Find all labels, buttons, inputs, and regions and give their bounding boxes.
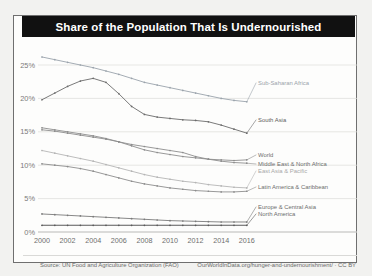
- data-point: [118, 177, 120, 179]
- data-point: [80, 168, 82, 170]
- data-point: [169, 150, 171, 152]
- data-point: [182, 220, 184, 222]
- data-point: [41, 129, 43, 131]
- data-point: [220, 224, 222, 226]
- data-point: [105, 82, 107, 84]
- data-point: [144, 114, 146, 116]
- data-point: [208, 158, 210, 160]
- data-point: [92, 224, 94, 226]
- y-axis-tick: 10%: [20, 161, 35, 170]
- data-point: [144, 146, 146, 148]
- series-label-connector: [247, 120, 256, 133]
- series-label-connector: [247, 163, 256, 164]
- source-url[interactable]: OurWorldInData.org/hunger-and-undernouri…: [197, 262, 356, 268]
- data-point: [80, 158, 82, 160]
- data-point: [105, 216, 107, 218]
- data-point: [131, 106, 133, 108]
- series-label-connector: [247, 171, 256, 188]
- data-point: [195, 190, 197, 192]
- data-point: [156, 176, 158, 178]
- data-point: [220, 185, 222, 187]
- x-axis-tick: 2006: [111, 236, 127, 245]
- data-point: [105, 164, 107, 166]
- data-point: [67, 61, 69, 63]
- line-chart: 0%5%10%15%20%25%200020022004200620082010…: [14, 16, 372, 266]
- data-point: [67, 86, 69, 88]
- data-point: [233, 191, 235, 193]
- series-label: Sub-Saharan Africa: [258, 80, 310, 86]
- data-point: [144, 224, 146, 226]
- data-point: [233, 100, 235, 102]
- data-point: [118, 141, 120, 143]
- data-point: [67, 224, 69, 226]
- data-point: [208, 221, 210, 223]
- data-point: [156, 84, 158, 86]
- data-point: [92, 216, 94, 218]
- x-axis-tick: 2002: [60, 236, 76, 245]
- data-point: [80, 224, 82, 226]
- data-point: [195, 156, 197, 158]
- data-point: [195, 220, 197, 222]
- data-point: [233, 186, 235, 188]
- series-label: Latin America & Caribbean: [258, 184, 328, 190]
- data-point: [182, 152, 184, 154]
- data-point: [118, 167, 120, 169]
- series-label: World: [258, 152, 273, 158]
- data-point: [169, 154, 171, 156]
- x-axis-tick: 2010: [162, 236, 178, 245]
- data-point: [118, 74, 120, 76]
- data-point: [105, 138, 107, 140]
- x-axis-tick: 2012: [188, 236, 204, 245]
- data-point: [156, 185, 158, 187]
- x-axis-tick: 2014: [213, 236, 229, 245]
- data-point: [80, 134, 82, 136]
- data-point: [92, 160, 94, 162]
- data-point: [156, 148, 158, 150]
- x-axis-tick: 2000: [34, 236, 50, 245]
- data-point: [131, 144, 133, 146]
- y-axis-tick: 15%: [20, 127, 35, 136]
- x-axis-tick: 2016: [239, 236, 255, 245]
- footer-divider: [23, 255, 357, 256]
- data-point: [220, 221, 222, 223]
- data-point: [131, 170, 133, 172]
- data-point: [92, 170, 94, 172]
- data-point: [169, 224, 171, 226]
- data-point: [220, 191, 222, 193]
- data-point: [169, 178, 171, 180]
- data-point: [208, 95, 210, 97]
- data-point: [92, 136, 94, 138]
- data-point: [233, 128, 235, 130]
- data-point: [208, 190, 210, 192]
- data-point: [92, 67, 94, 69]
- data-point: [144, 183, 146, 185]
- data-point: [182, 188, 184, 190]
- series-label: South Asia: [258, 117, 287, 123]
- data-point: [169, 220, 171, 222]
- data-point: [41, 163, 43, 165]
- data-point: [144, 218, 146, 220]
- data-point: [182, 119, 184, 121]
- data-point: [54, 130, 56, 132]
- data-point: [80, 64, 82, 66]
- data-point: [54, 152, 56, 154]
- data-point: [131, 218, 133, 220]
- data-point: [169, 87, 171, 89]
- data-point: [54, 214, 56, 216]
- data-point: [182, 224, 184, 226]
- data-point: [67, 132, 69, 134]
- plot-area: 0%5%10%15%20%25%200020022004200620082010…: [14, 16, 372, 276]
- series-line: [42, 214, 247, 222]
- data-point: [156, 152, 158, 154]
- data-point: [67, 166, 69, 168]
- data-point: [41, 224, 43, 226]
- series-line: [42, 78, 247, 133]
- series-line: [42, 164, 247, 192]
- series-line: [42, 151, 247, 188]
- data-point: [208, 224, 210, 226]
- series-label-connector: [247, 83, 256, 102]
- data-point: [144, 82, 146, 84]
- data-point: [156, 116, 158, 118]
- series-line: [42, 57, 247, 102]
- data-point: [118, 217, 120, 219]
